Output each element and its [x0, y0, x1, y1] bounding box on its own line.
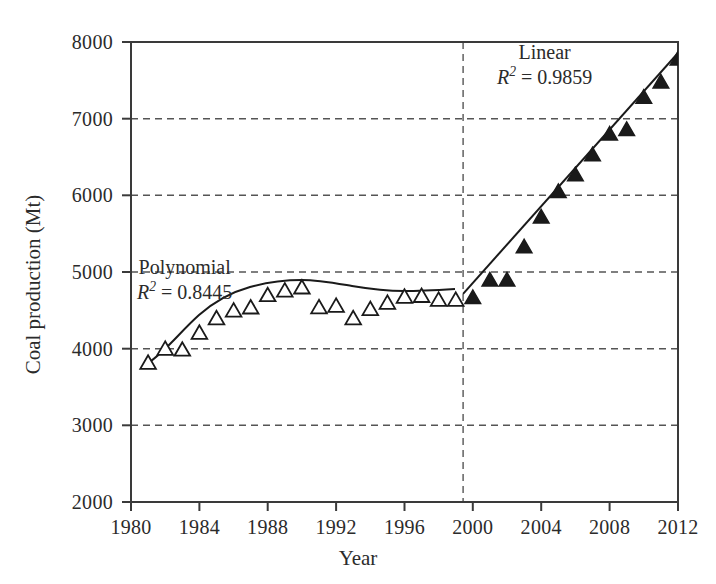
y-tick-label-7000: 7000 — [25, 107, 113, 130]
y-tick-label-3000: 3000 — [25, 414, 113, 437]
x-tick-label-2008: 2008 — [589, 516, 630, 539]
x-axis-ticks — [131, 502, 678, 511]
x-tick-label-1992: 1992 — [315, 516, 356, 539]
y-tick-label-2000: 2000 — [25, 491, 113, 514]
y-axis-title: Coal production (Mt) — [21, 155, 46, 415]
linear-fit-annotation: Linear R2 = 0.9859 — [497, 40, 592, 89]
x-tick-label-1996: 1996 — [384, 516, 425, 539]
x-tick-label-1984: 1984 — [179, 516, 220, 539]
linear-fit-label: Linear — [497, 40, 592, 64]
polynomial-fit-annotation: Polynomial R2 = 0.8445 — [137, 255, 232, 304]
linear-fit-r2: R2 = 0.9859 — [497, 64, 592, 89]
x-axis-title: Year — [0, 546, 716, 571]
polynomial-fit-label: Polynomial — [137, 255, 232, 279]
y-tick-label-8000: 8000 — [25, 31, 113, 54]
polynomial-fit-r2: R2 = 0.8445 — [137, 279, 232, 304]
x-tick-label-2004: 2004 — [521, 516, 562, 539]
x-tick-label-1980: 1980 — [110, 516, 151, 539]
x-tick-label-1988: 1988 — [247, 516, 288, 539]
x-tick-label-2012: 2012 — [657, 516, 698, 539]
y-axis-ticks — [122, 42, 131, 502]
x-tick-label-2000: 2000 — [452, 516, 493, 539]
coal-production-chart: 8000 7000 6000 5000 4000 3000 2000 1980 … — [0, 0, 716, 584]
